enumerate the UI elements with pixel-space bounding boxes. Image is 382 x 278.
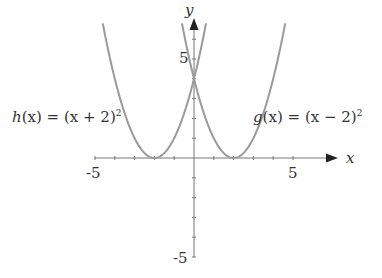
y-tick-label-min: -5 <box>173 249 188 267</box>
g-func-exponent: 2 <box>357 108 363 118</box>
y-tick-label-max: 5 <box>179 49 189 67</box>
curve-g <box>182 23 285 158</box>
y-axis-arrow-icon <box>190 18 199 30</box>
x-axis-label: x <box>346 149 355 167</box>
x-axis-arrow-icon <box>326 154 338 163</box>
y-axis-label: y <box>184 1 194 19</box>
x-tick-label-max: 5 <box>288 164 298 182</box>
g-func-name: g <box>253 108 263 126</box>
plot-area: x y -5 5 5 -5 h(x) = (x + 2)2 g(x) = (x … <box>0 0 382 278</box>
g-func-body: (x) = (x − 2) <box>263 108 357 126</box>
h-func-body: (x) = (x + 2) <box>22 108 116 126</box>
curve-h <box>103 23 206 158</box>
x-tick-label-min: -5 <box>86 164 101 182</box>
h-func-exponent: 2 <box>116 108 122 118</box>
annotation-h: h(x) = (x + 2)2 <box>12 108 122 126</box>
h-func-name: h <box>12 108 22 126</box>
chart-figure: x y -5 5 5 -5 h(x) = (x + 2)2 g(x) = (x … <box>0 0 382 278</box>
annotation-g: g(x) = (x − 2)2 <box>253 108 362 126</box>
